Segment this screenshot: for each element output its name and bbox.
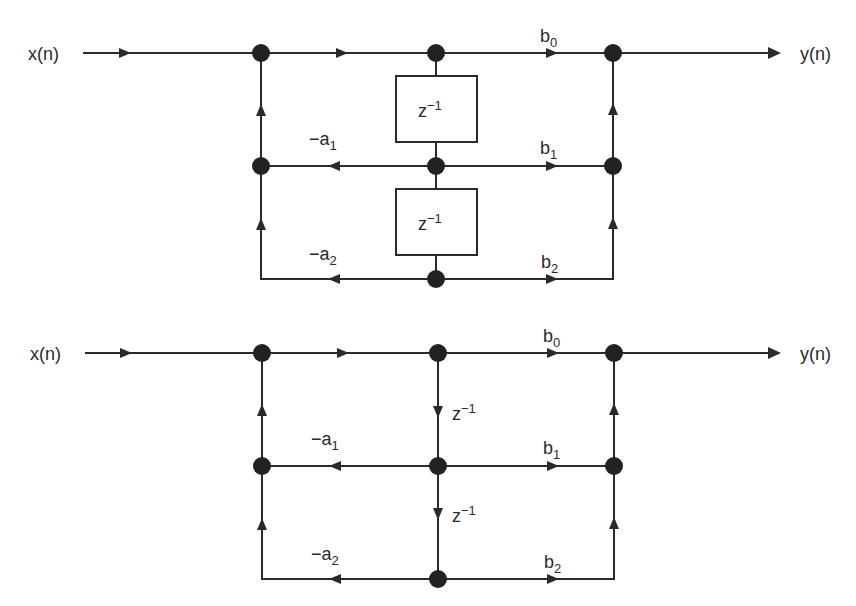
coef-b0: b0 — [543, 326, 560, 350]
coef-minus-a1: −a1 — [311, 429, 339, 453]
node — [429, 457, 447, 475]
b1-arrow-icon — [546, 161, 558, 171]
diagram-canvas: z−1 z−1 x(n) y(n) b0 b1 b2 −a1 −a2 — [0, 0, 856, 606]
feedback-up-arrow-icon — [257, 518, 267, 530]
node — [429, 570, 447, 588]
node — [604, 157, 622, 175]
feedforward-up-arrow-icon — [609, 517, 619, 529]
delay-label-2: z−1 — [452, 503, 476, 526]
input-label: x(n) — [28, 44, 59, 64]
coef-minus-a1: −a1 — [309, 129, 337, 153]
delay-label-1: z−1 — [452, 401, 476, 424]
node — [605, 344, 623, 362]
forward-arrow-icon — [336, 48, 348, 58]
a2-arrow-icon — [329, 574, 341, 584]
input-arrow-icon — [120, 348, 132, 358]
delay-down-arrow-icon — [433, 508, 443, 520]
input-label: x(n) — [30, 344, 61, 364]
feedforward-up-arrow-icon — [608, 217, 618, 229]
coef-b1: b1 — [540, 138, 557, 162]
feedforward-up-arrow-icon — [608, 103, 618, 115]
node — [604, 44, 622, 62]
coef-minus-a2: −a2 — [311, 544, 339, 568]
node — [429, 344, 447, 362]
delay-down-arrow-icon — [433, 406, 443, 418]
diagram-block-form: z−1 z−1 x(n) y(n) b0 b1 b2 −a1 −a2 — [28, 26, 831, 288]
feedback-up-arrow-icon — [256, 104, 266, 116]
node — [427, 157, 445, 175]
node — [253, 457, 271, 475]
feedback-up-arrow-icon — [256, 218, 266, 230]
output-arrow-icon — [768, 347, 781, 359]
node — [252, 157, 270, 175]
output-label: y(n) — [800, 44, 831, 64]
coef-b1: b1 — [543, 438, 560, 462]
node — [605, 457, 623, 475]
output-arrow-icon — [768, 47, 781, 59]
forward-arrow-icon — [337, 348, 349, 358]
a1-arrow-icon — [328, 161, 340, 171]
diagram-signal-flow-graph: z−1 z−1 x(n) y(n) b0 b1 b2 −a1 −a2 — [30, 326, 831, 588]
a2-arrow-icon — [328, 274, 340, 284]
feedback-up-arrow-icon — [257, 404, 267, 416]
input-arrow-icon — [119, 48, 131, 58]
b1-arrow-icon — [547, 461, 559, 471]
a1-arrow-icon — [329, 461, 341, 471]
output-label: y(n) — [800, 344, 831, 364]
node — [427, 44, 445, 62]
coef-minus-a2: −a2 — [309, 244, 337, 268]
feedforward-up-arrow-icon — [609, 403, 619, 415]
coef-b2: b2 — [541, 252, 558, 276]
node — [252, 44, 270, 62]
coef-b0: b0 — [540, 26, 557, 50]
node — [253, 344, 271, 362]
node — [427, 270, 445, 288]
coef-b2: b2 — [544, 552, 561, 576]
